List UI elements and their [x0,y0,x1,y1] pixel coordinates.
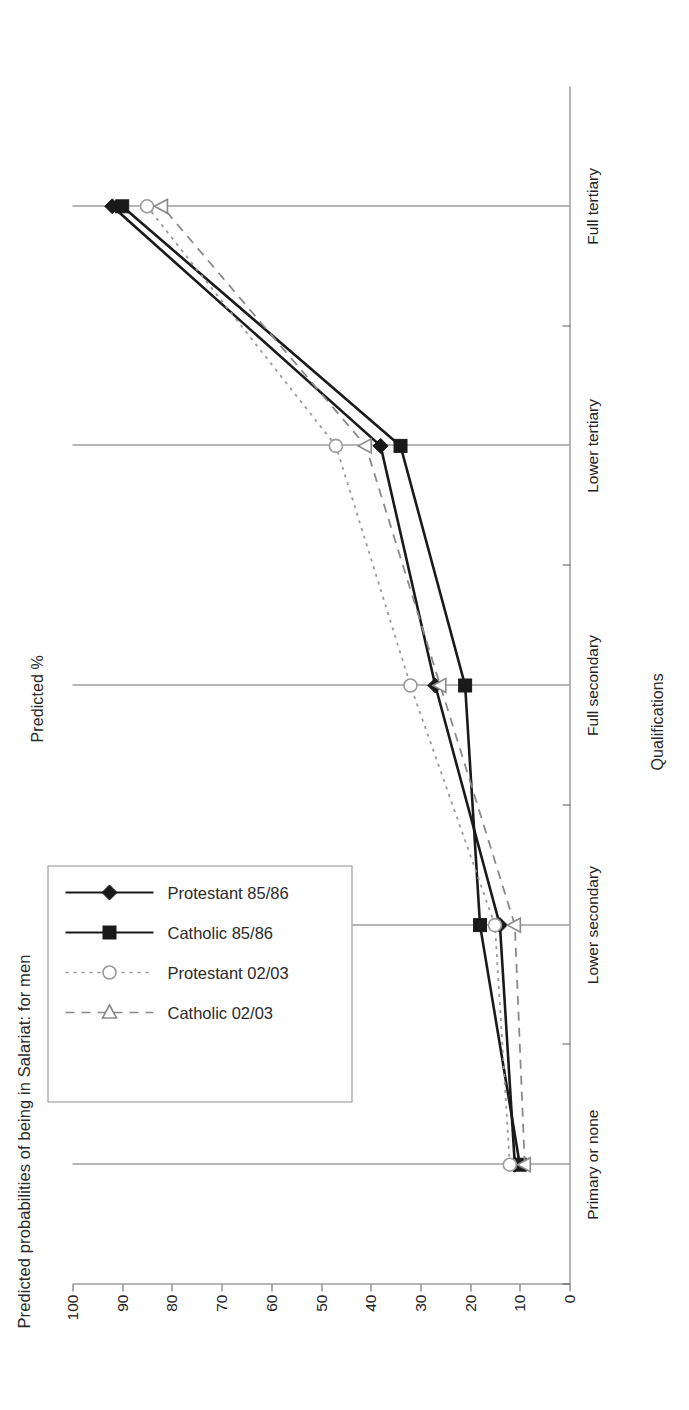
open-circle-marker [140,199,153,212]
legend-swatch [63,921,155,943]
y-tick-label: 40 [361,1294,379,1336]
y-tick [321,1284,322,1291]
x-tick-label: Primary or none [583,1109,601,1219]
open-circle-marker [103,966,116,979]
legend-swatch [63,961,155,983]
chart-figure: Predicted probabilities of being in Sala… [0,0,689,1410]
x-axis-title: Qualifications [648,673,666,770]
legend-box: Protestant 85/86Catholic 85/86Protestant… [47,865,352,1102]
y-tick [470,1284,471,1291]
x-tick-label: Full tertiary [583,167,601,244]
y-axis-title: Predicted % [28,655,46,742]
open-circle-marker [329,439,342,452]
y-tick-label: 10 [510,1294,528,1336]
filled-diamond-marker [102,885,117,900]
y-tick-label: 0 [560,1294,578,1336]
y-tick [420,1284,421,1291]
series-plot [72,86,569,1284]
x-tick-label: Lower tertiary [583,398,601,492]
open-circle-marker [488,918,501,931]
filled-square-marker [458,679,471,692]
y-tick [271,1284,272,1291]
filled-square-marker [394,439,407,452]
open-circle-marker [503,1158,516,1171]
legend-item[interactable]: Catholic 85/86 [63,919,336,945]
y-tick-label: 70 [212,1294,230,1336]
open-triangle-marker [358,438,371,452]
y-tick [519,1284,520,1291]
y-tick [72,1284,73,1291]
y-tick-label: 30 [411,1294,429,1336]
y-tick [171,1284,172,1291]
y-tick-label: 80 [162,1294,180,1336]
open-triangle-marker [154,199,167,213]
y-tick-label: 100 [63,1294,81,1336]
legend-item[interactable]: Protestant 02/03 [63,959,336,985]
x-tick-label: Lower secondary [583,866,601,984]
legend-item[interactable]: Protestant 85/86 [63,879,336,905]
rotated-chart-canvas: Predicted probabilities of being in Sala… [0,0,689,1410]
filled-square-marker [103,926,116,939]
plot-area: 0102030405060708090100 Primary or noneLo… [72,86,569,1284]
legend-swatch [63,881,155,903]
legend-entries: Protestant 85/86Catholic 85/86Protestant… [47,865,352,1102]
filled-square-marker [473,918,486,931]
legend-label: Protestant 85/86 [167,883,288,902]
y-tick-label: 50 [312,1294,330,1336]
legend-swatch [63,1001,155,1023]
legend-label: Catholic 85/86 [167,923,273,942]
legend-label: Catholic 02/03 [167,1003,273,1022]
y-tick [569,1284,570,1291]
legend-label: Protestant 02/03 [167,963,288,982]
open-circle-marker [403,679,416,692]
open-triangle-marker [102,1005,116,1018]
y-tick-label: 20 [461,1294,479,1336]
y-tick [221,1284,222,1291]
legend-item[interactable]: Catholic 02/03 [63,999,336,1025]
y-tick [122,1284,123,1291]
y-tick [370,1284,371,1291]
chart-title: Predicted probabilities of being in Sala… [14,954,33,1328]
y-tick-label: 60 [262,1294,280,1336]
filled-square-marker [115,199,128,212]
x-tick-label: Full secondary [583,635,601,736]
y-tick-label: 90 [113,1294,131,1336]
